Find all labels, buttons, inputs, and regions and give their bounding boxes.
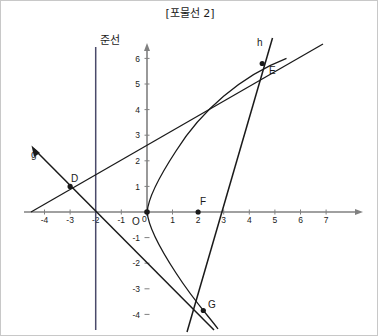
point-G-label: G <box>208 299 216 310</box>
line-h-label: h <box>257 37 263 48</box>
tangent-line <box>31 44 323 212</box>
x-tick-label: -1 <box>118 215 126 225</box>
directrix-label: 준선 <box>100 34 120 47</box>
x-tick-label: -4 <box>41 215 49 225</box>
point-E-marker <box>260 61 265 66</box>
point-E-label: E <box>269 65 276 76</box>
point-D-label: D <box>71 173 78 184</box>
x-axis: -4 -3 -2 -1 1 2 3 4 5 6 7 <box>24 209 363 225</box>
line-h <box>187 38 273 332</box>
y-axis: 1 2 3 4 5 6 -1 -2 -3 -4 <box>132 43 150 320</box>
point-D-marker <box>68 184 73 189</box>
x-tick-label: 5 <box>273 215 278 225</box>
x-tick-label: 6 <box>298 215 303 225</box>
y-tick-label: -4 <box>132 310 140 320</box>
y-tick-label: 6 <box>135 54 140 64</box>
plot-points: D E F G <box>68 61 277 313</box>
point-origin-marker <box>144 209 150 215</box>
origin-zero-label: 0 <box>142 214 147 224</box>
parabola-plot: -4 -3 -2 -1 1 2 3 4 5 6 7 <box>1 1 378 336</box>
point-F-label: F <box>200 196 206 207</box>
figure-container: [포물선 2] -4 -3 -2 -1 1 <box>0 0 378 336</box>
x-tick-label: 4 <box>247 215 252 225</box>
x-tick-label: 1 <box>170 215 175 225</box>
y-tick-label: -1 <box>132 233 140 243</box>
origin-label: O <box>132 216 140 227</box>
x-tick-label: 3 <box>221 215 226 225</box>
x-tick-label: 7 <box>324 215 329 225</box>
line-g <box>34 149 214 330</box>
point-G-marker <box>201 308 206 313</box>
y-tick-label: 4 <box>135 105 140 115</box>
y-tick-label: -2 <box>132 258 140 268</box>
y-tick-label: -3 <box>132 284 140 294</box>
y-tick-label: 2 <box>135 156 140 166</box>
y-tick-label: 5 <box>135 79 140 89</box>
x-tick-label: -3 <box>66 215 74 225</box>
x-tick-label: 2 <box>196 215 201 225</box>
parabola-curve <box>147 58 286 329</box>
y-tick-label: 3 <box>135 130 140 140</box>
y-tick-label: 1 <box>135 182 140 192</box>
point-F-marker <box>196 209 201 214</box>
line-g-label: g <box>31 149 37 160</box>
